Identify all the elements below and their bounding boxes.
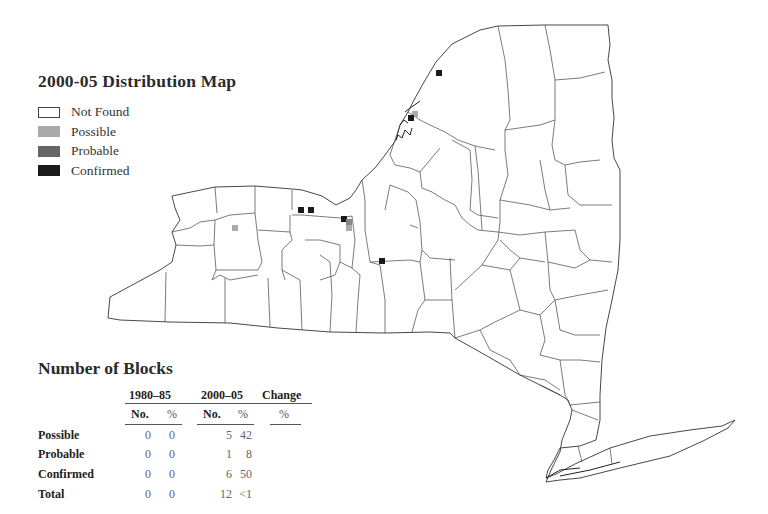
subheader-no-1980: No. [131,407,149,422]
blocks-title: Number of Blocks [38,358,173,379]
point-possible [346,225,352,231]
cell-no-1980: 0 [131,428,151,443]
cell-pct-2000: 50 [232,467,252,482]
period-header-1980: 1980–85 [129,388,171,403]
point-confirmed [436,70,442,76]
cell-pct-1980: 0 [155,447,175,462]
row-label-confirmed: Confirmed [38,467,94,482]
subheader-rule-change [270,424,301,425]
point-confirmed [308,207,314,213]
cell-pct-1980: 0 [155,428,175,443]
cell-no-2000: 6 [212,467,232,482]
header-rule [125,403,312,404]
cell-no-1980: 0 [131,447,151,462]
point-probable [346,219,352,225]
point-possible [232,225,238,231]
cell-pct-1980: 0 [155,467,175,482]
subheader-pct-1980: % [167,407,177,422]
cell-no-2000: 12 [212,487,232,502]
subheader-pct-change: % [279,407,289,422]
point-confirmed [379,258,385,264]
cell-no-2000: 5 [212,428,232,443]
cell-pct-2000: 8 [232,447,252,462]
cell-pct-1980: 0 [155,487,175,502]
cell-no-2000: 1 [212,447,232,462]
cell-no-1980: 0 [131,467,151,482]
cell-pct-2000: <1 [232,487,252,502]
subheader-no-2000: No. [203,407,221,422]
row-label-total: Total [38,487,64,502]
cell-pct-2000: 42 [232,428,252,443]
period-header-change: Change [262,388,301,403]
point-confirmed [298,207,304,213]
subheader-rule-2000 [197,424,254,425]
subheader-rule-1980 [125,424,182,425]
state-map [0,0,768,514]
cell-no-1980: 0 [131,487,151,502]
subheader-pct-2000: % [238,407,248,422]
point-confirmed [408,115,414,121]
row-label-probable: Probable [38,447,84,462]
row-label-possible: Possible [38,428,79,443]
period-header-2000: 2000–05 [201,388,243,403]
